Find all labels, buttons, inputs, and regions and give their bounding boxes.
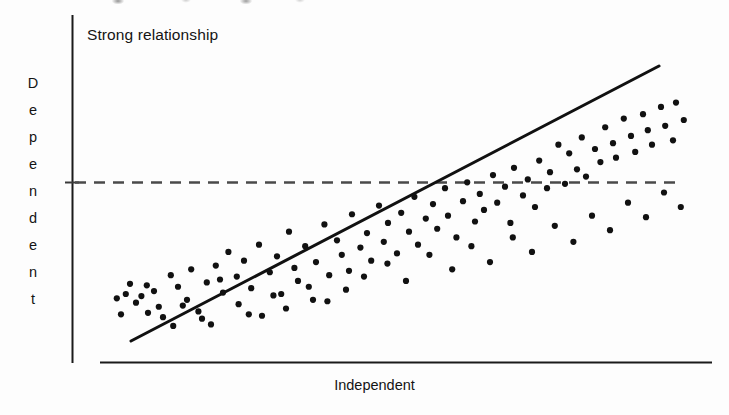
scatter-point xyxy=(460,198,466,204)
scatter-point xyxy=(625,200,631,206)
scatter-point xyxy=(208,321,214,327)
scatter-point xyxy=(570,239,576,245)
scatter-point xyxy=(532,204,538,210)
scatter-point xyxy=(274,253,280,259)
plot-canvas xyxy=(0,0,729,415)
scatter-point xyxy=(321,221,327,227)
scatter-point xyxy=(547,169,553,175)
scatter-point xyxy=(430,201,436,207)
scatter-point xyxy=(376,202,382,208)
scatter-point xyxy=(442,185,448,191)
scatter-point xyxy=(241,258,247,264)
scatter-point xyxy=(403,278,409,284)
scatter-point xyxy=(270,292,276,298)
scatter-point xyxy=(579,134,585,140)
scatter-point xyxy=(555,142,561,148)
scatter-point xyxy=(349,211,355,217)
scatter-point xyxy=(175,284,181,290)
scatter-point xyxy=(368,258,374,264)
scatter-point xyxy=(291,265,297,271)
scatter-point xyxy=(415,242,421,248)
scatter-point xyxy=(589,213,595,219)
scatter-point xyxy=(339,252,345,258)
scatter-point xyxy=(127,281,133,287)
scatter-point xyxy=(213,262,219,268)
scatter-point xyxy=(602,124,608,130)
scatter-point xyxy=(204,279,210,285)
scatter-point xyxy=(507,220,513,226)
scatter-point xyxy=(295,278,301,284)
scatter-point xyxy=(610,140,616,146)
scatter-point xyxy=(324,298,330,304)
scatter-point xyxy=(445,213,451,219)
scatter-point xyxy=(536,158,542,164)
scatter-point xyxy=(313,259,319,265)
scatter-point xyxy=(283,305,289,311)
scatter-point xyxy=(544,185,550,191)
scatter-point xyxy=(398,210,404,216)
y-axis-label-letter: e xyxy=(29,97,37,124)
scatter-point xyxy=(423,216,429,222)
scatter-point xyxy=(487,259,493,265)
scatter-point xyxy=(406,229,412,235)
scatter-point xyxy=(310,297,316,303)
y-axis-label-letter: e xyxy=(29,151,37,178)
scatter-point xyxy=(562,181,568,187)
scatter-point xyxy=(306,284,312,290)
scatter-point xyxy=(217,276,223,282)
scatter-point xyxy=(267,269,273,275)
scatter-point xyxy=(477,191,483,197)
scatter-point xyxy=(236,301,242,307)
scatter-point xyxy=(511,165,517,171)
scatter-point xyxy=(494,200,500,206)
scatter-point xyxy=(286,229,292,235)
scatter-point xyxy=(234,274,240,280)
scatter-point xyxy=(138,293,144,299)
y-axis-label-letter: e xyxy=(29,232,37,259)
scatter-point xyxy=(145,310,151,316)
scatter-point xyxy=(334,237,340,243)
scatter-point xyxy=(302,243,308,249)
scatter-point xyxy=(597,159,603,165)
scatter-point xyxy=(552,223,558,229)
scatter-point xyxy=(621,115,627,121)
scatter-point xyxy=(180,303,186,309)
scatter-point xyxy=(662,123,668,129)
scatter-point xyxy=(381,239,387,245)
scatter-point xyxy=(220,289,226,295)
scatter-point xyxy=(361,274,367,280)
scatter-point xyxy=(613,155,619,161)
scatter-point xyxy=(574,166,580,172)
scatter-point xyxy=(434,226,440,232)
scatter-plot-figure: Strong relationship Dependent Independen… xyxy=(0,0,729,415)
scatter-point xyxy=(449,266,455,272)
trend-line xyxy=(131,66,659,341)
scatter-point xyxy=(168,272,174,278)
y-axis-label-letter: d xyxy=(29,205,37,232)
scatter-point xyxy=(151,288,157,294)
scatter-point xyxy=(259,313,265,319)
scatter-point xyxy=(673,100,679,106)
y-axis-label-letter: p xyxy=(29,124,37,151)
scatter-point xyxy=(525,176,531,182)
plot-title: Strong relationship xyxy=(87,26,218,44)
scatter-point xyxy=(188,266,194,272)
y-axis-label-letter: n xyxy=(29,259,37,286)
scatter-point xyxy=(649,142,655,148)
scatter-point xyxy=(184,297,190,303)
scatter-point xyxy=(278,291,284,297)
scatter-point-group xyxy=(114,100,687,330)
scatter-point xyxy=(453,234,459,240)
x-axis-label: Independent xyxy=(0,377,729,393)
scatter-point xyxy=(628,133,634,139)
scatter-point xyxy=(670,137,676,143)
scatter-point xyxy=(529,249,535,255)
scatter-point xyxy=(681,117,687,123)
scatter-point xyxy=(385,220,391,226)
scatter-point xyxy=(195,308,201,314)
scatter-point xyxy=(357,245,363,251)
scatter-point xyxy=(326,272,332,278)
scatter-point xyxy=(426,252,432,258)
scatter-point xyxy=(123,291,129,297)
scatter-point xyxy=(394,250,400,256)
